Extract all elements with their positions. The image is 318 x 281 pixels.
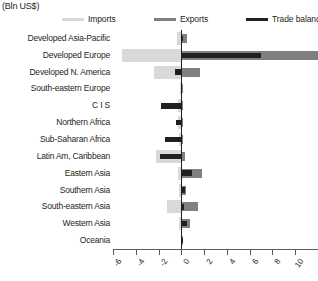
legend-label: Trade balance	[272, 15, 318, 24]
bar-row	[113, 182, 318, 199]
value-axis: -6-4-2024681012	[113, 249, 318, 281]
category-label-9: Southern Asia	[0, 186, 110, 195]
legend-item-exports[interactable]: Exports	[154, 13, 208, 25]
category-label-5: Northern Africa	[0, 118, 110, 127]
category-label-0: Developed Asia-Pacific	[0, 34, 110, 43]
bar-row	[113, 198, 318, 215]
bar-row	[113, 30, 318, 47]
axis-tick-label: -6	[112, 257, 123, 268]
legend-swatch-exports-icon	[154, 18, 176, 21]
plot-area	[113, 30, 318, 249]
bar-imports[interactable]	[167, 200, 182, 213]
axis-tick-label: 12	[316, 257, 318, 269]
bar-row	[113, 114, 318, 131]
bar-trade-balance[interactable]	[181, 53, 261, 59]
category-label-3: South-eastern Europe	[0, 84, 110, 93]
chart-legend: ImportsExportsTrade balance	[62, 13, 316, 25]
category-label-11: Western Asia	[0, 219, 110, 228]
bar-trade-balance[interactable]	[181, 221, 187, 227]
axis-tick	[227, 249, 228, 255]
bar-row	[113, 131, 318, 148]
bar-row	[113, 148, 318, 165]
axis-line	[113, 249, 318, 250]
axis-tick-label: 6	[250, 257, 260, 266]
axis-tick-label: 0	[182, 257, 192, 266]
unit-label: (Bln US$)	[2, 1, 39, 11]
axis-tick-label: 10	[293, 257, 305, 269]
axis-tick-label: 2	[205, 257, 215, 266]
bar-row	[113, 232, 318, 249]
axis-tick	[250, 249, 251, 255]
bar-exports[interactable]	[181, 68, 199, 77]
bar-trade-balance[interactable]	[165, 137, 181, 143]
bar-row	[113, 97, 318, 114]
axis-tick-label: -4	[135, 257, 146, 268]
bar-trade-balance[interactable]	[160, 154, 182, 160]
legend-swatch-imports-icon	[62, 18, 84, 21]
bar-row	[113, 81, 318, 98]
category-axis-labels: Developed Asia-PacificDeveloped EuropeDe…	[0, 30, 110, 249]
bar-row	[113, 215, 318, 232]
legend-item-balance[interactable]: Trade balance	[246, 13, 318, 25]
category-label-7: Latin Am, Caribbean	[0, 152, 110, 161]
axis-tick-label: 4	[227, 257, 237, 266]
bar-trade-balance[interactable]	[181, 170, 191, 176]
legend-swatch-balance-icon	[246, 18, 268, 21]
category-label-4: C I S	[0, 101, 110, 110]
category-label-1: Developed Europe	[0, 51, 110, 60]
category-label-10: South-eastern Asia	[0, 202, 110, 211]
axis-tick	[113, 249, 114, 255]
category-label-8: Eastern Asia	[0, 169, 110, 178]
category-label-6: Sub-Saharan Africa	[0, 135, 110, 144]
bar-row	[113, 64, 318, 81]
bar-row	[113, 165, 318, 182]
axis-tick	[204, 249, 205, 255]
axis-tick-label: 8	[273, 257, 283, 266]
axis-tick	[181, 249, 182, 255]
legend-label: Exports	[180, 15, 208, 24]
axis-tick-label: -2	[157, 257, 168, 268]
axis-tick	[295, 249, 296, 255]
axis-tick	[136, 249, 137, 255]
chart-root: (Bln US$) ImportsExportsTrade balance De…	[0, 0, 318, 281]
category-label-2: Developed N. America	[0, 68, 110, 77]
bar-row	[113, 47, 318, 64]
legend-label: Imports	[88, 15, 116, 24]
bar-trade-balance[interactable]	[161, 103, 181, 109]
axis-tick	[272, 249, 273, 255]
bar-imports[interactable]	[122, 49, 181, 62]
axis-tick	[159, 249, 160, 255]
legend-item-imports[interactable]: Imports	[62, 13, 116, 25]
category-label-12: Oceania	[0, 236, 110, 245]
zero-axis-line	[181, 30, 182, 249]
